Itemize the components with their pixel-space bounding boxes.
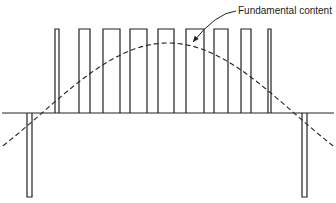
positive-pulse — [55, 29, 59, 113]
negative-pulses — [27, 113, 307, 197]
positive-pulse — [268, 29, 271, 113]
positive-pulse — [79, 29, 90, 113]
positive-pulse — [130, 29, 147, 113]
negative-pulse — [302, 113, 307, 197]
positive-pulses — [55, 29, 271, 113]
pwm-diagram — [0, 0, 336, 203]
positive-pulse — [214, 29, 228, 113]
positive-pulse — [158, 29, 174, 113]
positive-pulse — [103, 29, 120, 113]
positive-pulse — [186, 29, 204, 113]
fundamental-dashed-line — [3, 43, 333, 146]
fundamental-content-label: Fundamental content — [238, 5, 332, 16]
fundamental-curve — [3, 43, 333, 146]
negative-pulse — [27, 113, 32, 197]
positive-pulse — [241, 29, 251, 113]
